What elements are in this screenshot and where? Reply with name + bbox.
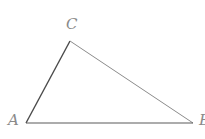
- vertex-label-c: C: [66, 17, 77, 32]
- triangle-diagram: [0, 0, 205, 139]
- side-ac: [26, 41, 70, 123]
- vertex-label-b: B: [199, 113, 205, 128]
- side-cb: [70, 41, 193, 123]
- vertex-label-a: A: [8, 113, 19, 128]
